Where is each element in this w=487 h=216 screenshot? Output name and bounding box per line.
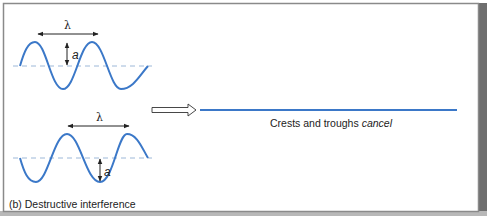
result-text: Crests and troughs — [270, 117, 359, 129]
result-description: Crests and troughs cancel — [270, 117, 392, 129]
bottom-wavelength-label: λ — [96, 111, 103, 124]
frame-border — [4, 4, 479, 212]
frame-shadow-right — [478, 3, 487, 216]
bottom-amplitude-label: a — [104, 165, 111, 179]
diagram-frame: λ a λ a — [0, 0, 487, 216]
result-emphasis: cancel — [362, 117, 392, 129]
panel-caption: (b) Destructive interference — [9, 198, 136, 210]
top-wavelength-label: λ — [64, 19, 71, 32]
top-amplitude-label: a — [72, 48, 79, 62]
